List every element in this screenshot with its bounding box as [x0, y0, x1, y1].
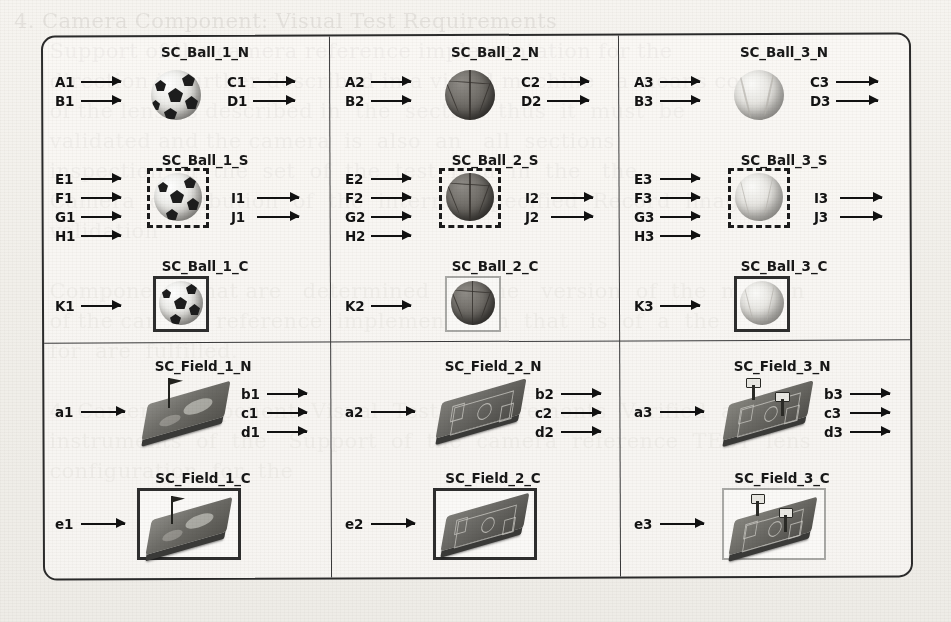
- input-ports: E1 F1 G1 H1: [55, 169, 123, 245]
- port-row[interactable]: A3: [634, 72, 702, 91]
- port-row[interactable]: H2: [345, 226, 413, 245]
- port-row[interactable]: E2: [345, 169, 413, 188]
- port-row[interactable]: H3: [634, 226, 702, 245]
- port-row[interactable]: b1: [241, 384, 309, 403]
- port-row[interactable]: D3: [810, 91, 880, 110]
- soccer-ball-icon: [151, 70, 201, 120]
- component-ball-2-n[interactable]: SC_Ball_2_N A2 B2 C2 D2: [345, 44, 607, 130]
- port-row[interactable]: J1: [231, 207, 301, 226]
- arrow-icon: [840, 216, 882, 218]
- component-label: SC_Field_3_N: [734, 358, 831, 374]
- component-label: SC_Ball_2_N: [451, 44, 539, 60]
- component-field-2-c[interactable]: SC_Field_2_C e2: [345, 470, 607, 566]
- port-row[interactable]: K1: [55, 296, 123, 315]
- port-row[interactable]: A2: [345, 72, 413, 91]
- port-label: G2: [345, 209, 366, 225]
- port-label: d1: [241, 424, 262, 440]
- port-row[interactable]: F3: [634, 188, 702, 207]
- component-label: SC_Ball_3_S: [741, 152, 828, 168]
- port-label: a1: [55, 404, 76, 420]
- port-row[interactable]: C1: [227, 72, 297, 91]
- port-row[interactable]: d2: [535, 422, 603, 441]
- output-ports: I2 J2: [525, 188, 595, 226]
- port-row[interactable]: B1: [55, 91, 123, 110]
- port-row[interactable]: e2: [345, 514, 417, 533]
- port-label: e1: [55, 516, 76, 532]
- port-label: K3: [634, 298, 655, 314]
- port-label: a2: [345, 404, 366, 420]
- port-row[interactable]: C2: [521, 72, 591, 91]
- port-label: d3: [824, 424, 845, 440]
- arrow-icon: [81, 523, 125, 525]
- port-row[interactable]: B3: [634, 91, 702, 110]
- component-field-2-n[interactable]: SC_Field_2_N a2 b2 c2 d2: [345, 358, 607, 454]
- port-row[interactable]: c1: [241, 403, 309, 422]
- port-row[interactable]: G3: [634, 207, 702, 226]
- soccer-ball-icon: [153, 276, 209, 332]
- component-ball-2-c[interactable]: SC_Ball_2_C K2: [345, 258, 607, 338]
- port-row[interactable]: d3: [824, 422, 892, 441]
- port-row[interactable]: K2: [345, 296, 413, 315]
- component-ball-2-s[interactable]: SC_Ball_2_S E2 F2 G2 H2 I2 J2: [345, 152, 607, 252]
- port-row[interactable]: E3: [634, 169, 702, 188]
- basketball-court-icon: [718, 376, 818, 444]
- arrow-icon: [371, 197, 411, 199]
- component-ball-1-c[interactable]: SC_Ball_1_C K1: [55, 258, 317, 338]
- component-ball-1-n[interactable]: SC_Ball_1_N A1 B1 C1 D1: [55, 44, 317, 130]
- component-ball-3-c[interactable]: SC_Ball_3_C K3: [634, 258, 896, 338]
- output-ports: C2 D2: [521, 72, 591, 110]
- component-label: SC_Ball_3_N: [740, 44, 828, 60]
- port-row[interactable]: E1: [55, 169, 123, 188]
- component-field-1-c[interactable]: SC_Field_1_C e1: [55, 470, 317, 566]
- port-row[interactable]: c2: [535, 403, 603, 422]
- port-row[interactable]: F1: [55, 188, 123, 207]
- arrow-icon: [660, 411, 704, 413]
- port-row[interactable]: G1: [55, 207, 123, 226]
- basketball-icon: [439, 168, 501, 228]
- arrow-icon: [81, 305, 121, 307]
- component-label: SC_Field_1_N: [155, 358, 252, 374]
- component-ball-3-n[interactable]: SC_Ball_3_N A3 B3 C3 D3: [634, 44, 896, 130]
- port-row[interactable]: e1: [55, 514, 127, 533]
- port-row[interactable]: a2: [345, 402, 417, 421]
- component-label: SC_Ball_1_N: [161, 44, 249, 60]
- arrow-icon: [371, 305, 411, 307]
- port-row[interactable]: a1: [55, 402, 127, 421]
- port-row[interactable]: J2: [525, 207, 595, 226]
- port-row[interactable]: I3: [814, 188, 884, 207]
- arrow-icon: [267, 412, 307, 414]
- port-row[interactable]: I1: [231, 188, 301, 207]
- port-row[interactable]: G2: [345, 207, 413, 226]
- port-row[interactable]: B2: [345, 91, 413, 110]
- port-row[interactable]: a3: [634, 402, 706, 421]
- port-row[interactable]: e3: [634, 514, 706, 533]
- port-row[interactable]: D2: [521, 91, 591, 110]
- port-row[interactable]: d1: [241, 422, 309, 441]
- port-row[interactable]: A1: [55, 72, 123, 91]
- port-row[interactable]: c3: [824, 403, 892, 422]
- component-field-3-n[interactable]: SC_Field_3_N a3 b3 c3 d3: [634, 358, 896, 454]
- port-row[interactable]: H1: [55, 226, 123, 245]
- arrow-icon: [660, 523, 704, 525]
- component-field-1-n[interactable]: SC_Field_1_N a1 b1 c1 d1: [55, 358, 317, 454]
- port-row[interactable]: J3: [814, 207, 884, 226]
- port-label: H2: [345, 228, 366, 244]
- component-ball-3-s[interactable]: SC_Ball_3_S E3 F3 G3 H3 I3 J3: [634, 152, 896, 252]
- input-ports: K2: [345, 296, 413, 315]
- port-row[interactable]: I2: [525, 188, 595, 207]
- port-row[interactable]: F2: [345, 188, 413, 207]
- port-row[interactable]: K3: [634, 296, 702, 315]
- component-field-3-c[interactable]: SC_Field_3_C e3: [634, 470, 896, 566]
- column-divider-1: [329, 37, 332, 578]
- soccer-field-icon: [433, 488, 537, 560]
- port-row[interactable]: C3: [810, 72, 880, 91]
- component-label: SC_Field_2_C: [445, 470, 540, 486]
- port-label: E1: [55, 171, 76, 187]
- port-row[interactable]: b3: [824, 384, 892, 403]
- port-row[interactable]: D1: [227, 91, 297, 110]
- output-ports: I1 J1: [231, 188, 301, 226]
- port-label: J1: [231, 209, 252, 225]
- port-label: B3: [634, 93, 655, 109]
- component-ball-1-s[interactable]: SC_Ball_1_S E1 F1 G1 H1 I1 J1: [55, 152, 317, 252]
- port-row[interactable]: b2: [535, 384, 603, 403]
